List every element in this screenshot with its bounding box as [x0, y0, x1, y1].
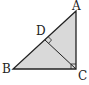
label-d: D: [36, 24, 46, 38]
label-a: A: [71, 0, 81, 13]
label-c: C: [78, 69, 87, 83]
triangle-diagram: A B C D: [0, 0, 89, 85]
label-b: B: [2, 62, 11, 76]
